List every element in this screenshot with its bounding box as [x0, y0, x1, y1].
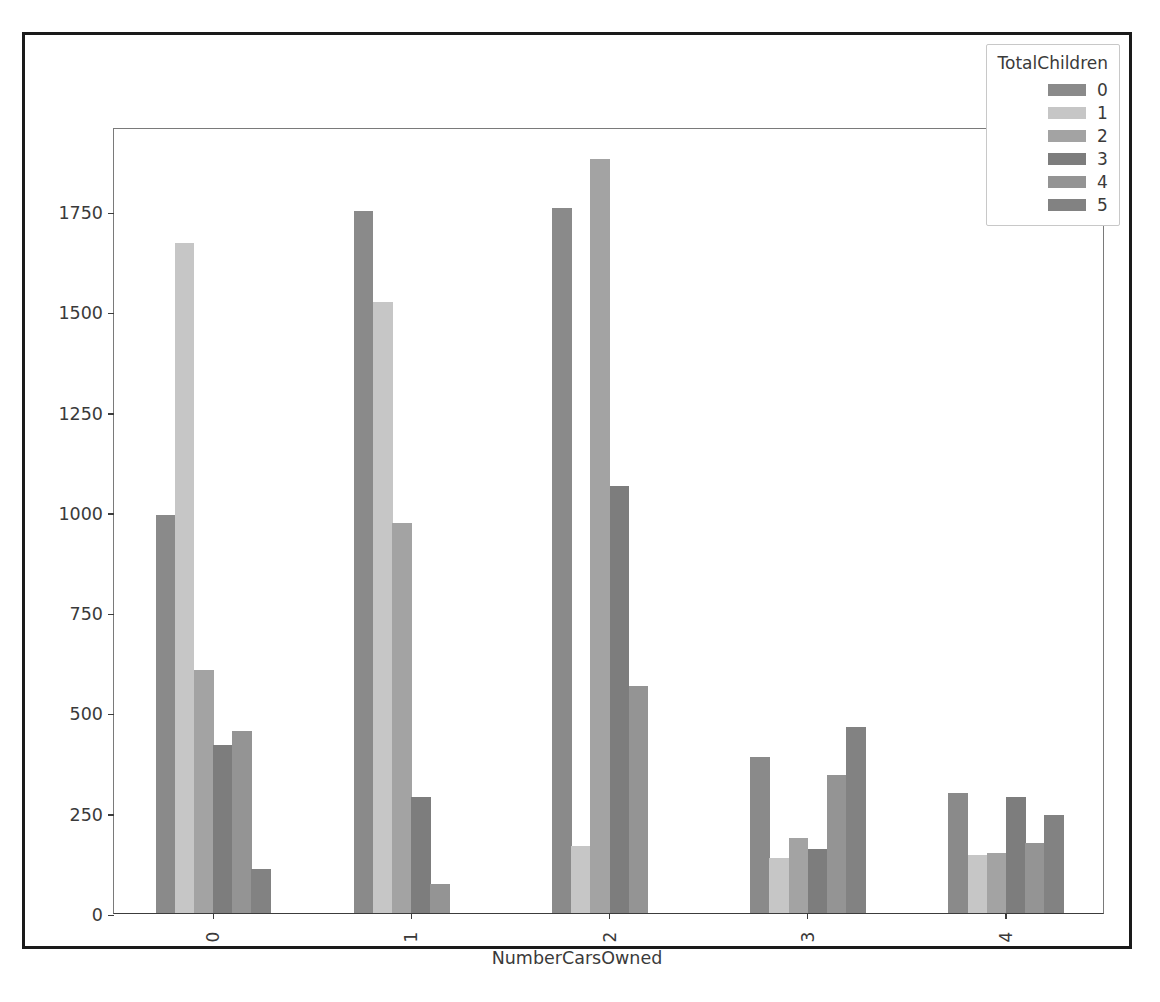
x-tick-mark	[213, 913, 214, 919]
legend-item[interactable]: 3	[998, 147, 1108, 170]
y-tick-mark	[108, 513, 114, 514]
y-tick-label: 1250	[58, 403, 103, 425]
legend-label: 4	[1097, 172, 1108, 192]
legend-item[interactable]: 0	[998, 78, 1108, 101]
bar	[629, 686, 649, 913]
legend-label: 3	[1097, 149, 1108, 169]
x-tick-mark	[609, 913, 610, 919]
y-tick-mark	[108, 213, 114, 214]
x-tick-label: 0	[203, 932, 223, 943]
bar	[968, 855, 988, 913]
legend-swatch-icon	[1048, 84, 1086, 96]
bar	[430, 884, 450, 913]
y-tick-label: 1750	[58, 202, 103, 224]
bar	[156, 515, 176, 913]
chart-legend: TotalChildren 012345	[986, 44, 1120, 226]
bar	[232, 731, 252, 913]
bar	[194, 670, 214, 913]
bar	[251, 869, 271, 913]
bar	[750, 757, 770, 913]
legend-swatch-icon	[1048, 130, 1086, 142]
bar	[552, 208, 572, 913]
bar	[213, 745, 233, 913]
legend-rows: 012345	[998, 78, 1108, 216]
y-tick-mark	[108, 413, 114, 414]
plot-area: 02505007501000125015001750 01234	[113, 128, 1104, 914]
bar	[1006, 797, 1026, 913]
x-tick-mark	[1005, 913, 1006, 919]
x-tick-mark	[807, 913, 808, 919]
bar	[987, 853, 1007, 913]
x-tick-label: 3	[798, 932, 818, 943]
bar	[373, 302, 393, 913]
y-tick-label: 1500	[58, 302, 103, 324]
legend-swatch-icon	[1048, 199, 1086, 211]
bar	[827, 775, 847, 913]
figure-frame: 02505007501000125015001750 01234 NumberC…	[22, 32, 1132, 949]
bar	[590, 159, 610, 913]
legend-swatch-icon	[1048, 107, 1086, 119]
bar	[808, 849, 828, 913]
y-tick-mark	[108, 915, 114, 916]
legend-item[interactable]: 1	[998, 101, 1108, 124]
bar	[411, 797, 431, 913]
legend-label: 2	[1097, 126, 1108, 146]
legend-label: 0	[1097, 80, 1108, 100]
legend-label: 5	[1097, 195, 1108, 215]
y-tick-mark	[108, 313, 114, 314]
y-tick-label: 500	[70, 703, 103, 725]
x-tick-label: 1	[401, 932, 421, 943]
legend-item[interactable]: 2	[998, 124, 1108, 147]
legend-label: 1	[1097, 103, 1108, 123]
bar	[789, 838, 809, 913]
bar	[1044, 815, 1064, 913]
y-tick-label: 750	[70, 603, 103, 625]
y-tick-label: 0	[92, 904, 103, 926]
bar	[392, 523, 412, 913]
x-tick-label: 4	[996, 932, 1016, 943]
legend-swatch-icon	[1048, 153, 1086, 165]
y-tick-label: 1000	[58, 503, 103, 525]
bar	[610, 486, 630, 913]
bar	[1025, 843, 1045, 913]
y-tick-mark	[108, 814, 114, 815]
bar	[846, 727, 866, 913]
legend-item[interactable]: 5	[998, 193, 1108, 216]
x-axis-label: NumberCarsOwned	[25, 948, 1129, 968]
bar	[571, 846, 591, 913]
bar	[175, 243, 195, 913]
y-tick-mark	[108, 614, 114, 615]
legend-swatch-icon	[1048, 176, 1086, 188]
x-tick-mark	[411, 913, 412, 919]
x-tick-label: 2	[600, 932, 620, 943]
y-tick-label: 250	[70, 804, 103, 826]
bar	[769, 858, 789, 913]
bar	[354, 211, 374, 913]
bar	[948, 793, 968, 913]
legend-title: TotalChildren	[998, 53, 1108, 73]
legend-item[interactable]: 4	[998, 170, 1108, 193]
y-tick-mark	[108, 714, 114, 715]
